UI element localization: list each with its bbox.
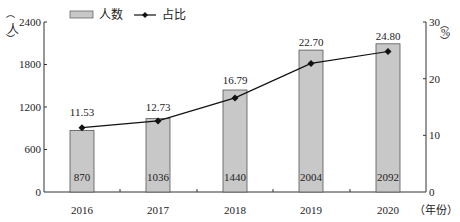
left-axis-unit: ︵ 人 ︶	[6, 9, 19, 44]
line-label-2018: 16.79	[223, 74, 248, 86]
left-tick-1200: 1200	[19, 101, 42, 113]
left-tick-1800: 1800	[19, 58, 42, 70]
bar-label-2017: 1036	[147, 171, 170, 183]
right-axis-unit: ︵ % ︶	[440, 20, 450, 46]
x-label-2016: 2016	[71, 204, 94, 216]
combo-chart: 人数 占比 ︵ 人 ︶ ︵ % ︶ 2400 1800 1200 600 0 3…	[0, 0, 460, 222]
right-tick-10: 10	[429, 129, 441, 141]
left-tick-2400: 2400	[19, 16, 42, 28]
line-label-2016: 11.53	[70, 106, 95, 118]
right-tick-20: 20	[429, 73, 441, 85]
bar-label-2019: 2004	[300, 171, 323, 183]
bar-label-2016: 870	[74, 171, 91, 183]
bar-label-2020: 2092	[377, 171, 399, 183]
x-axis: 2016 2017 2018 2019 2020 （年份）	[44, 189, 458, 216]
right-tick-0: 0	[429, 186, 435, 198]
legend-diamond-icon	[142, 12, 148, 18]
x-label-2018: 2018	[224, 204, 247, 216]
bar-label-2018: 1440	[224, 171, 247, 183]
left-tick-600: 600	[25, 143, 42, 155]
legend-bar-swatch	[70, 11, 93, 18]
legend-bar-label: 人数	[99, 7, 123, 22]
x-axis-title: （年份）	[414, 203, 458, 216]
line-label-2020: 24.80	[376, 30, 401, 42]
legend: 人数 占比	[70, 7, 186, 22]
x-label-2020: 2020	[377, 204, 400, 216]
legend-line-label: 占比	[162, 7, 186, 22]
svg-text:︶: ︶	[6, 34, 15, 44]
x-label-2019: 2019	[300, 204, 323, 216]
x-label-2017: 2017	[147, 204, 170, 216]
svg-text:︶: ︶	[440, 36, 449, 46]
right-axis: 30 20 10 0	[423, 16, 441, 198]
line-label-2017: 12.73	[146, 101, 171, 113]
left-tick-0: 0	[36, 186, 42, 198]
svg-text:︵: ︵	[6, 9, 15, 19]
bar-2020	[376, 44, 400, 192]
left-axis: 2400 1800 1200 600 0	[19, 16, 47, 198]
right-tick-30: 30	[429, 16, 441, 28]
line-label-2019: 22.70	[299, 36, 324, 48]
bars: 870 1036 1440 2004 2092	[70, 44, 400, 192]
